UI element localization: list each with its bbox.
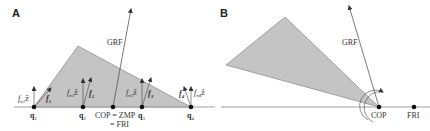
grf-label-a: GRF: [107, 38, 123, 47]
q3-label: q3: [138, 111, 145, 121]
cop-label-b: COP: [371, 111, 387, 120]
panel-b: B GRF COP FRI: [220, 6, 430, 122]
contact-point-q2: [81, 105, 86, 110]
fri-label-a: = FRI: [110, 120, 129, 129]
q2-label: q2: [79, 111, 86, 121]
fn4-label: fn4ẑ: [194, 88, 205, 98]
fri-label-b: FRI: [407, 111, 420, 120]
cop-point-a: [111, 105, 116, 110]
q4-label: q4: [187, 111, 194, 121]
panel-a: A GRF q1 q2 q3 q4 COP = ZMP = FRI fn1ẑ: [12, 7, 215, 129]
cop-zmp-label: COP = ZMP: [95, 111, 136, 120]
contact-point-q1: [32, 105, 37, 110]
grf-label-b: GRF: [342, 38, 358, 47]
cop-point-b: [377, 105, 382, 110]
fn1-label: fn1ẑ: [18, 94, 29, 104]
panel-b-label: B: [220, 7, 228, 19]
contact-point-q3: [140, 105, 145, 110]
f4-label: f4: [179, 89, 185, 99]
q1-label: q1: [30, 111, 37, 121]
diagram-canvas: A GRF q1 q2 q3 q4 COP = ZMP = FRI fn1ẑ: [0, 0, 430, 131]
contact-triangle-a: [34, 46, 191, 107]
panel-a-label: A: [12, 7, 20, 19]
contact-point-q4: [189, 105, 194, 110]
fri-point-b: [412, 105, 417, 110]
